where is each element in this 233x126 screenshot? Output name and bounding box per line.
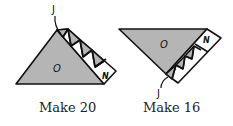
label-n-right: N [203, 36, 210, 45]
leader-j-right [161, 77, 168, 88]
label-o-left: O [53, 63, 61, 74]
caption-left: Make 20 [39, 100, 96, 115]
label-n-left: N [102, 72, 109, 81]
label-j-right: J [156, 88, 160, 99]
label-j-left: J [51, 4, 55, 15]
figure-left [16, 29, 116, 84]
caption-right: Make 16 [143, 100, 200, 115]
label-o-right: O [160, 39, 168, 50]
